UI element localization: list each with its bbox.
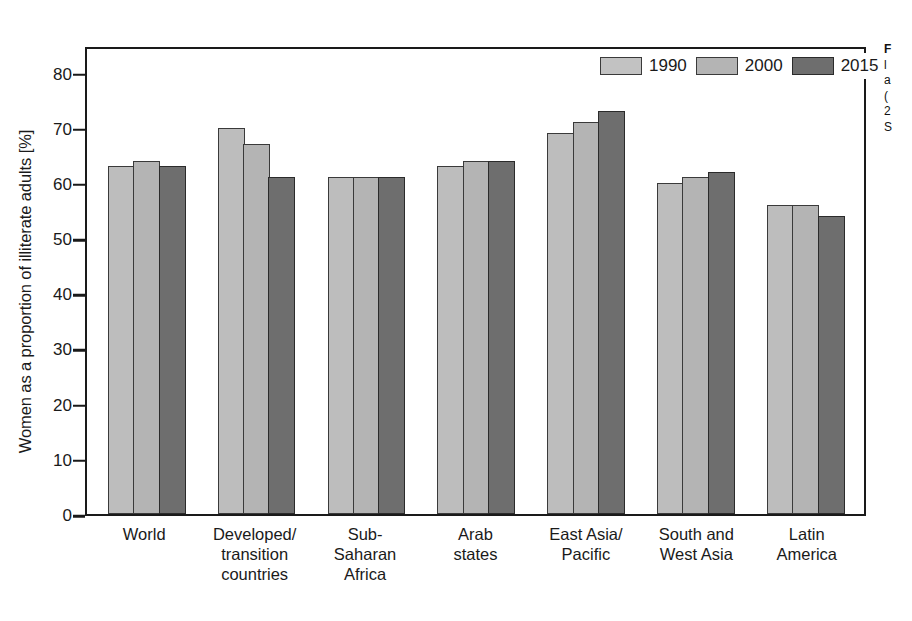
y-tick-mark — [73, 404, 85, 407]
x-tick-label-line: states — [420, 544, 530, 564]
bar-2015 — [488, 161, 515, 514]
x-tick-label: East Asia/Pacific — [531, 524, 641, 584]
x-axis-labels: WorldDeveloped/transitioncountriesSub-Sa… — [85, 524, 866, 584]
x-tick-label: World — [89, 524, 199, 584]
bar-2015 — [598, 111, 625, 514]
bar-1990 — [108, 166, 135, 514]
x-tick-label-line: East Asia/ — [531, 524, 641, 544]
x-tick-label-line: Latin — [752, 524, 862, 544]
bar-2000 — [133, 161, 160, 514]
y-tick-mark — [73, 129, 85, 132]
bar-1990 — [218, 128, 245, 514]
x-tick-label-line: Sub- — [310, 524, 420, 544]
bar-group — [218, 49, 294, 514]
bar-group — [328, 49, 404, 514]
bar-group — [547, 49, 623, 514]
y-tick-mark — [73, 73, 85, 76]
bar-2000 — [243, 144, 270, 514]
x-tick-label-line: Developed/ — [199, 524, 309, 544]
x-tick-label-line: countries — [199, 564, 309, 584]
y-tick-mark — [73, 515, 85, 518]
y-tick-mark — [73, 294, 85, 297]
x-tick-label-line: America — [752, 544, 862, 564]
bar-1990 — [767, 205, 794, 514]
bar-2000 — [353, 177, 380, 514]
x-tick-label-line: South and — [641, 524, 751, 544]
plot-area — [85, 47, 866, 516]
legend-label: 2015 — [841, 56, 879, 76]
x-tick-label-line: West Asia — [641, 544, 751, 564]
x-tick-label-line: Arab — [420, 524, 530, 544]
caption-line: F — [884, 42, 912, 58]
caption-line: ( — [884, 89, 912, 105]
bar-group — [657, 49, 733, 514]
bar-2000 — [792, 205, 819, 514]
caption-line: 2 — [884, 104, 912, 120]
legend-item-1990: 1990 — [600, 56, 687, 76]
bar-2000 — [573, 122, 600, 514]
bar-2015 — [268, 177, 295, 514]
legend-swatch-2000 — [696, 57, 738, 75]
caption-line: l — [884, 58, 912, 74]
x-tick-label: Arabstates — [420, 524, 530, 584]
y-tick-mark — [73, 460, 85, 463]
x-tick-label: South andWest Asia — [641, 524, 751, 584]
bar-2015 — [818, 216, 845, 514]
x-tick-label-line: Pacific — [531, 544, 641, 564]
legend-item-2015: 2015 — [792, 56, 879, 76]
bar-group — [437, 49, 513, 514]
x-tick-label: Developed/transitioncountries — [199, 524, 309, 584]
bar-2015 — [708, 172, 735, 514]
x-tick-label-line: World — [89, 524, 199, 544]
figure-bar-chart: Women as a proportion of illiterate adul… — [0, 0, 912, 621]
bar-1990 — [547, 133, 574, 514]
legend-swatch-1990 — [600, 57, 642, 75]
legend-label: 1990 — [649, 56, 687, 76]
bar-group — [108, 49, 184, 514]
x-tick-label-line: Saharan — [310, 544, 420, 564]
bar-2015 — [378, 177, 405, 514]
bar-2000 — [682, 177, 709, 514]
y-tick-mark — [73, 349, 85, 352]
bar-2000 — [463, 161, 490, 514]
bar-1990 — [328, 177, 355, 514]
bar-1990 — [657, 183, 684, 514]
bar-group — [767, 49, 843, 514]
caption-line: S — [884, 120, 912, 136]
figure-caption-cropped: Fla(2S — [884, 42, 912, 135]
bar-2015 — [159, 166, 186, 514]
y-tick-mark — [73, 239, 85, 242]
legend-swatch-2015 — [792, 57, 834, 75]
legend-label: 2000 — [745, 56, 783, 76]
legend: 199020002015 — [596, 53, 882, 79]
x-tick-label-line: Africa — [310, 564, 420, 584]
x-tick-label-line: transition — [199, 544, 309, 564]
caption-line: a — [884, 73, 912, 89]
x-tick-label: LatinAmerica — [752, 524, 862, 584]
y-tick-mark — [73, 184, 85, 187]
bar-groups — [87, 49, 864, 514]
x-tick-label: Sub-SaharanAfrica — [310, 524, 420, 584]
legend-item-2000: 2000 — [696, 56, 783, 76]
bar-1990 — [437, 166, 464, 514]
